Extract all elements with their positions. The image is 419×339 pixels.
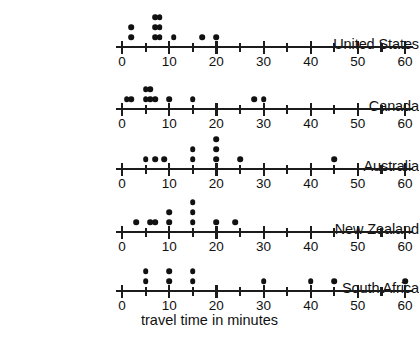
- axis-tick-label-30: 30: [256, 54, 271, 69]
- axis-tick-5: [145, 165, 147, 174]
- axis-tick-label-10: 10: [162, 298, 177, 313]
- axis-tick-10: [168, 163, 170, 176]
- axis-tick-55: [380, 287, 382, 296]
- axis-tick-40: [310, 163, 312, 176]
- data-dot: [261, 96, 267, 102]
- row-label-united-states: United States: [301, 36, 419, 52]
- axis-tick-label-30: 30: [256, 176, 271, 191]
- data-dot: [190, 209, 196, 215]
- axis-tick-5: [145, 43, 147, 52]
- axis-tick-label-0: 0: [118, 239, 126, 254]
- axis-tick-label-10: 10: [162, 239, 177, 254]
- axis-tick-label-50: 50: [350, 239, 365, 254]
- data-dot: [157, 24, 163, 30]
- axis-tick-55: [380, 228, 382, 237]
- data-dot: [143, 156, 149, 162]
- data-dot: [232, 219, 238, 225]
- axis-tick-45: [333, 287, 335, 296]
- axis-tick-10: [168, 226, 170, 239]
- axis-tick-label-30: 30: [256, 116, 271, 131]
- data-dot: [129, 24, 135, 30]
- data-dot: [157, 34, 163, 40]
- data-dot: [214, 146, 220, 152]
- axis-tick-40: [310, 103, 312, 116]
- axis-tick-45: [333, 165, 335, 174]
- row-label-australia: Australia: [301, 158, 419, 174]
- axis-tick-45: [333, 228, 335, 237]
- axis-tick-label-60: 60: [397, 239, 412, 254]
- axis-tick-label-0: 0: [118, 176, 126, 191]
- data-dot: [162, 156, 168, 162]
- axis-tick-label-50: 50: [350, 54, 365, 69]
- axis-tick-label-60: 60: [397, 176, 412, 191]
- axis-tick-15: [192, 165, 194, 174]
- axis-tick-55: [380, 105, 382, 114]
- axis-tick-60: [404, 226, 406, 239]
- axis-tick-20: [215, 41, 217, 54]
- data-dot: [129, 34, 135, 40]
- axis-tick-label-30: 30: [256, 298, 271, 313]
- data-dot: [331, 156, 337, 162]
- axis-tick-10: [168, 41, 170, 54]
- axis-tick-35: [286, 43, 288, 52]
- axis-tick-25: [239, 228, 241, 237]
- data-dot: [152, 96, 158, 102]
- axis-tick-label-50: 50: [350, 116, 365, 131]
- axis-tick-label-10: 10: [162, 176, 177, 191]
- axis-tick-10: [168, 103, 170, 116]
- data-dot: [214, 156, 220, 162]
- axis-tick-label-40: 40: [303, 176, 318, 191]
- axis-tick-label-40: 40: [303, 54, 318, 69]
- axis-tick-label-20: 20: [209, 239, 224, 254]
- data-dot: [190, 219, 196, 225]
- axis-tick-label-60: 60: [397, 54, 412, 69]
- axis-tick-5: [145, 228, 147, 237]
- data-dot: [152, 219, 158, 225]
- axis-tick-60: [404, 285, 406, 298]
- axis-tick-10: [168, 285, 170, 298]
- row-label-south-africa: South Africa: [301, 280, 419, 296]
- axis-tick-35: [286, 287, 288, 296]
- axis-tick-60: [404, 41, 406, 54]
- axis-tick-15: [192, 228, 194, 237]
- x-axis-title: travel time in minutes: [0, 312, 419, 328]
- data-dot: [143, 278, 149, 284]
- data-dot: [237, 156, 243, 162]
- data-dot: [331, 278, 337, 284]
- axis-tick-label-40: 40: [303, 239, 318, 254]
- axis-tick-label-50: 50: [350, 298, 365, 313]
- data-dot: [152, 156, 158, 162]
- axis-tick-0: [121, 226, 123, 239]
- axis-tick-50: [357, 103, 359, 116]
- axis-tick-40: [310, 285, 312, 298]
- dot-plot-chart: United States0102030405060Canada01020304…: [0, 0, 419, 339]
- data-dot: [402, 278, 408, 284]
- axis-tick-55: [380, 43, 382, 52]
- axis-tick-0: [121, 103, 123, 116]
- axis-tick-label-30: 30: [256, 239, 271, 254]
- axis-tick-label-20: 20: [209, 54, 224, 69]
- axis-tick-20: [215, 103, 217, 116]
- data-dot: [261, 278, 267, 284]
- data-dot: [251, 96, 257, 102]
- axis-tick-0: [121, 285, 123, 298]
- axis-tick-15: [192, 105, 194, 114]
- data-dot: [166, 209, 172, 215]
- axis-tick-label-50: 50: [350, 176, 365, 191]
- axis-tick-15: [192, 287, 194, 296]
- data-dot: [171, 34, 177, 40]
- axis-tick-25: [239, 287, 241, 296]
- data-dot: [190, 146, 196, 152]
- axis-tick-label-10: 10: [162, 54, 177, 69]
- axis-tick-30: [263, 103, 265, 116]
- axis-tick-label-60: 60: [397, 298, 412, 313]
- data-dot: [190, 96, 196, 102]
- axis-tick-30: [263, 226, 265, 239]
- data-dot: [214, 219, 220, 225]
- data-dot: [148, 86, 154, 92]
- axis-tick-45: [333, 105, 335, 114]
- axis-tick-5: [145, 287, 147, 296]
- axis-tick-label-0: 0: [118, 298, 126, 313]
- data-dot: [214, 136, 220, 142]
- axis-tick-60: [404, 163, 406, 176]
